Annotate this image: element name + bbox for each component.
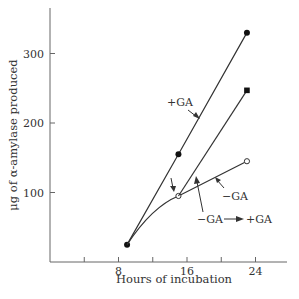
arrow-right-icon	[236, 216, 244, 222]
arrow-down-icon	[170, 186, 176, 192]
x-axis-label: Hours of incubation	[116, 272, 233, 286]
y-tick-label: 100	[23, 187, 44, 200]
data-point	[244, 88, 250, 94]
y-tick-label: 200	[23, 117, 44, 130]
arrowhead-icon	[194, 176, 200, 184]
data-point	[244, 30, 250, 36]
arrowhead-icon	[215, 177, 221, 183]
series-0	[124, 30, 250, 248]
amylase-line-chart: 81624100200300 Hours of incubation μg of…	[0, 0, 299, 299]
tick-labels: 81624100200300	[23, 48, 263, 279]
arrowhead-icon	[193, 112, 200, 119]
x-tick-label: 24	[249, 265, 263, 278]
y-tick-label: 300	[23, 48, 44, 61]
series-layer	[124, 30, 250, 248]
series-line	[127, 33, 247, 245]
annotation-transfer-left: −GA	[197, 213, 224, 226]
annotation-transfer-right: +GA	[246, 213, 273, 226]
data-point	[244, 159, 249, 164]
data-point	[175, 151, 181, 157]
y-axis-label: μg of α-amylase produced	[6, 59, 20, 211]
ticks	[50, 54, 256, 263]
annotation-transfer-arrow	[197, 182, 203, 212]
annotations: +GA −GA −GA +GA	[167, 96, 273, 226]
annotation-plus-ga: +GA	[167, 96, 194, 109]
annotation-minus-ga: −GA	[222, 190, 249, 203]
